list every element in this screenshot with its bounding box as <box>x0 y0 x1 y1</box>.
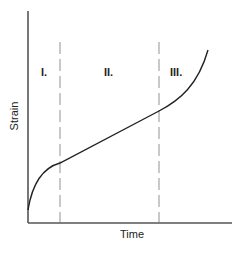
stage-2-label: II. <box>104 66 113 78</box>
x-axis-label: Time <box>120 228 144 240</box>
creep-curve-diagram: I. II. III. Time Strain <box>0 0 242 253</box>
chart-canvas <box>0 0 242 253</box>
stage-3-label: III. <box>170 66 182 78</box>
stage-1-label: I. <box>41 66 47 78</box>
y-axis-label: Strain <box>8 102 20 131</box>
